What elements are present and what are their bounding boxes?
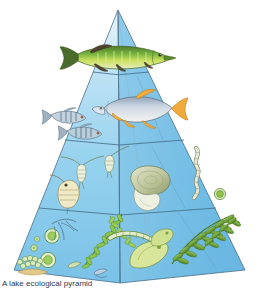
ecological-pyramid-figure: A lake ecological pyramid <box>0 0 270 288</box>
volvox-colony-icon <box>35 237 40 242</box>
volvox-colony-icon <box>31 245 37 251</box>
green-algae-cell-icon <box>214 188 225 199</box>
level-1-organisms <box>60 45 176 72</box>
northern-pike-icon <box>60 45 176 72</box>
volvox-colony-icon <box>45 229 59 243</box>
figure-caption: A lake ecological pyramid <box>2 279 268 288</box>
volvox-colony-icon <box>40 252 55 267</box>
pyramid-illustration <box>0 0 270 288</box>
